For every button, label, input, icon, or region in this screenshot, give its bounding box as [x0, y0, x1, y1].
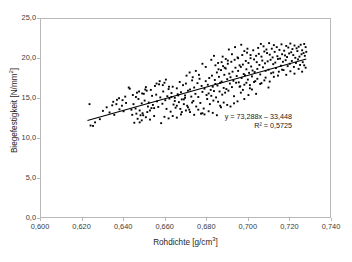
- data-point: [231, 86, 233, 88]
- data-point: [133, 103, 135, 105]
- data-point: [250, 54, 252, 56]
- data-point: [189, 72, 191, 74]
- data-point: [135, 108, 137, 110]
- data-point: [176, 105, 178, 107]
- data-point: [277, 58, 279, 60]
- data-point: [206, 94, 208, 96]
- data-point: [220, 69, 222, 71]
- data-point: [230, 61, 232, 63]
- data-point: [142, 112, 144, 114]
- data-point: [115, 103, 117, 105]
- data-point: [143, 93, 145, 95]
- x-axis-tick-label: 0,660: [145, 223, 185, 231]
- data-point: [255, 55, 257, 57]
- data-point: [146, 111, 148, 113]
- data-point: [243, 84, 245, 86]
- data-point: [116, 99, 118, 101]
- data-point: [285, 74, 287, 76]
- x-axis-tick-label: 0,620: [62, 223, 102, 231]
- data-point: [189, 89, 191, 91]
- data-point: [201, 63, 203, 65]
- data-point: [222, 65, 224, 67]
- data-point: [153, 107, 155, 109]
- data-point: [197, 109, 199, 111]
- data-point: [234, 59, 236, 61]
- x-axis-title: Rohdichte [g/cm3]: [40, 238, 331, 247]
- data-point: [272, 56, 274, 58]
- data-point: [255, 93, 257, 95]
- data-point: [205, 80, 207, 82]
- data-point: [149, 119, 151, 121]
- data-point: [263, 45, 265, 47]
- data-point: [172, 86, 174, 88]
- x-axis-tick-label: 0,740: [311, 223, 351, 231]
- data-point: [247, 79, 249, 81]
- data-point: [139, 110, 141, 112]
- data-point: [145, 116, 147, 118]
- data-point: [174, 97, 176, 99]
- x-axis-tickmark: [40, 218, 41, 221]
- data-point: [301, 71, 303, 73]
- data-point: [187, 90, 189, 92]
- data-point: [235, 82, 237, 84]
- data-point: [254, 71, 256, 73]
- data-point: [294, 73, 296, 75]
- data-point: [265, 49, 267, 51]
- data-point: [218, 76, 220, 78]
- data-point: [238, 81, 240, 83]
- data-point: [296, 50, 298, 52]
- data-point: [111, 104, 113, 106]
- x-axis-tick-label: 0,640: [103, 223, 143, 231]
- data-point: [144, 100, 146, 102]
- data-point: [261, 56, 263, 58]
- data-point: [164, 99, 166, 101]
- data-point: [298, 46, 300, 48]
- data-point: [135, 96, 137, 98]
- data-point: [179, 108, 181, 110]
- data-point: [225, 88, 227, 90]
- data-point: [214, 79, 216, 81]
- data-point: [175, 107, 177, 109]
- data-point: [288, 53, 290, 55]
- data-point: [271, 48, 273, 50]
- data-point: [259, 73, 261, 75]
- data-point: [226, 104, 228, 106]
- data-point: [223, 87, 225, 89]
- data-point: [278, 49, 280, 51]
- data-point: [191, 102, 193, 104]
- x-axis-tickmark: [82, 218, 83, 221]
- data-point: [188, 109, 190, 111]
- data-point: [261, 60, 263, 62]
- data-point: [164, 82, 166, 84]
- data-point: [141, 102, 143, 104]
- data-point: [278, 71, 280, 73]
- data-point: [284, 54, 286, 56]
- data-point: [179, 81, 181, 83]
- data-point: [240, 44, 242, 46]
- data-point: [302, 61, 304, 63]
- data-point: [193, 87, 195, 89]
- data-point: [140, 114, 142, 116]
- data-point: [159, 96, 161, 98]
- data-point: [230, 76, 232, 78]
- regression-equation-text: y = 73,288x – 33,448: [196, 112, 292, 121]
- data-point: [133, 122, 135, 124]
- data-point: [221, 94, 223, 96]
- x-axis-title-tail: ]: [216, 238, 218, 247]
- data-point: [272, 72, 274, 74]
- data-point: [194, 93, 196, 95]
- data-point: [232, 71, 234, 73]
- data-point: [273, 76, 275, 78]
- data-point: [213, 55, 215, 57]
- data-point: [299, 56, 301, 58]
- data-point: [195, 70, 197, 72]
- data-point: [301, 49, 303, 51]
- x-axis-tickmark: [206, 218, 207, 221]
- data-point: [268, 87, 270, 89]
- data-point: [157, 106, 159, 108]
- data-point: [264, 62, 266, 64]
- data-point: [185, 83, 187, 85]
- data-point: [263, 51, 265, 53]
- data-point: [227, 63, 229, 65]
- data-point: [141, 93, 143, 95]
